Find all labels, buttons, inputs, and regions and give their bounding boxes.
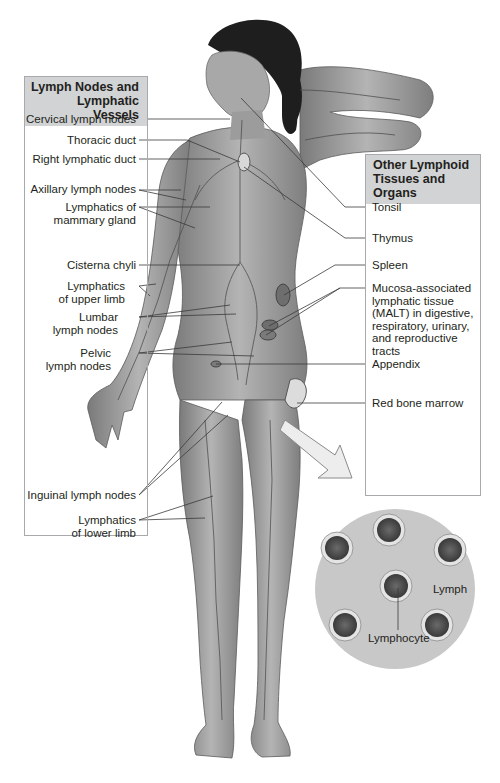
panel-title-line1: Other Lymphoid <box>373 158 474 172</box>
label-red-bone-marrow: Red bone marrow <box>372 397 463 410</box>
label-thoracic-duct: Thoracic duct <box>67 134 136 147</box>
label-lymphatics-mammary-gland: Lymphatics ofmammary gland <box>54 201 136 226</box>
lymphocyte-cell <box>329 609 361 641</box>
label-spleen: Spleen <box>372 259 408 272</box>
head <box>206 20 302 140</box>
left-leg <box>179 400 242 758</box>
lymphocyte-cell <box>321 532 353 564</box>
leader-spleen <box>284 265 365 295</box>
label-lymph: Lymph <box>433 583 467 595</box>
lymphocyte-cell <box>434 534 466 566</box>
panel-title-line1: Lymph Nodes and <box>31 80 139 94</box>
label-appendix: Appendix <box>372 358 420 371</box>
label-cervical-lymph-nodes: Cervical lymph nodes <box>26 113 136 126</box>
label-lymphatics-upper-limb: Lymphaticsof upper limb <box>59 280 125 305</box>
lymphocyte-cell <box>380 570 412 602</box>
neck <box>230 110 266 140</box>
label-lymphatics-lower-limb: Lymphaticsof lower limb <box>71 514 136 539</box>
intestine-malt-2 <box>260 330 276 340</box>
label-axillary-lymph-nodes: Axillary lymph nodes <box>31 183 136 196</box>
spleen <box>276 284 290 306</box>
label-cisterna-chyli: Cisterna chyli <box>67 259 136 272</box>
label-malt: Mucosa-associated lymphatic tissue (MALT… <box>372 282 473 357</box>
label-thymus: Thymus <box>372 232 413 245</box>
other-lymphoid-panel-header: Other Lymphoid Tissues and Organs <box>366 155 480 204</box>
panel-title-line2: Tissues and Organs <box>373 172 474 200</box>
label-lumbar-lymph-nodes: Lumbarlymph nodes <box>53 311 118 336</box>
label-inguinal-lymph-nodes: Inguinal lymph nodes <box>27 489 136 502</box>
label-lymphocyte: Lymphocyte <box>368 632 430 644</box>
lymphocyte-cell <box>373 514 405 546</box>
label-right-lymphatic-duct: Right lymphatic duct <box>32 153 136 166</box>
label-pelvic-lymph-nodes: Pelviclymph nodes <box>46 347 111 372</box>
label-tonsil: Tonsil <box>372 201 401 214</box>
